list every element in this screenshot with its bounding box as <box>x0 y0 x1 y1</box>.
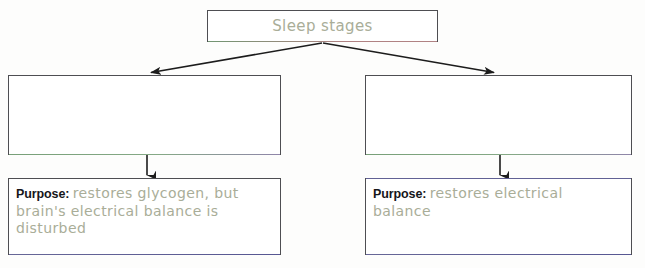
sleep-stages-diagram: Sleep stages Purpose: restores glycogen,… <box>0 0 645 268</box>
purpose-box-left[interactable]: Purpose: restores glycogen, but brain's … <box>8 178 281 255</box>
purpose-left-label: Purpose: <box>16 187 73 201</box>
purpose-right-text: Purpose: restores electrical balance <box>373 185 624 220</box>
arrow-title-to-right-stage <box>323 43 494 73</box>
stage-box-right[interactable] <box>365 75 632 155</box>
purpose-left-text: Purpose: restores glycogen, but brain's … <box>16 185 273 237</box>
title-box: Sleep stages <box>207 10 438 42</box>
purpose-box-right[interactable]: Purpose: restores electrical balance <box>365 178 632 255</box>
arrow-title-to-left-stage <box>151 43 322 73</box>
purpose-right-label: Purpose: <box>373 187 430 201</box>
stage-box-left[interactable] <box>8 75 281 155</box>
title-label: Sleep stages <box>272 19 373 34</box>
